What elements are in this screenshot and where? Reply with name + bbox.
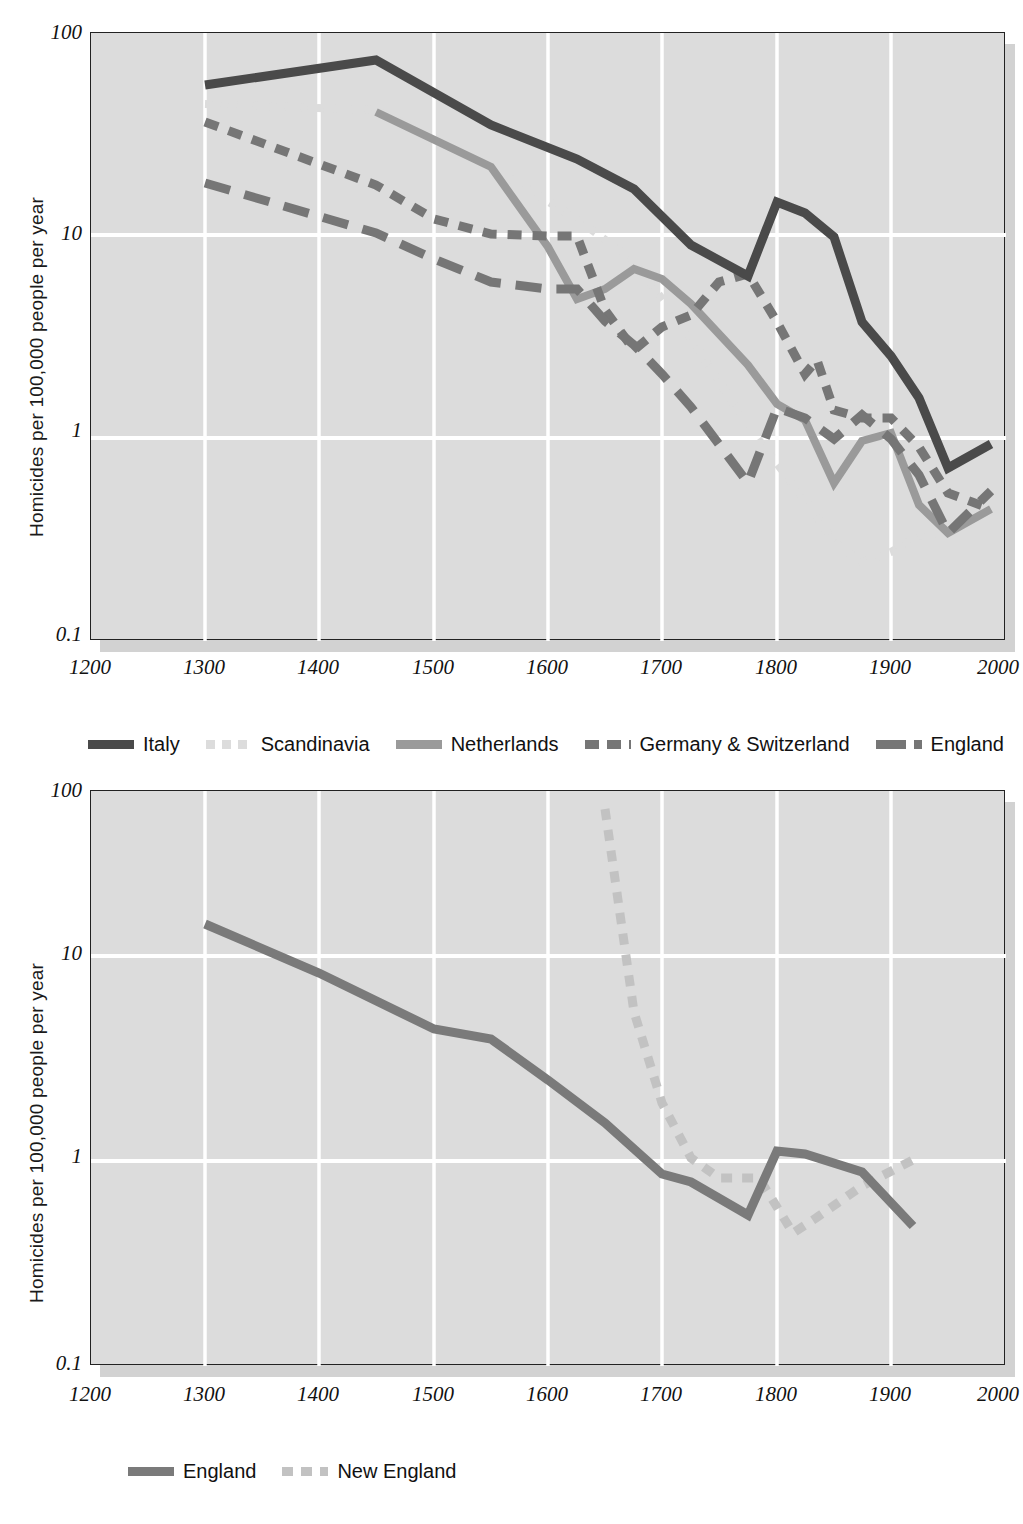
bottom-chart-xtick-2000: 2000 xyxy=(958,1382,1023,1407)
legend-swatch-italy xyxy=(88,740,134,749)
bottom-chart-plot-area xyxy=(90,790,1005,1365)
bottom-chart-ytick-0.1: 0.1 xyxy=(10,1351,82,1376)
top-chart-xtick-1500: 1500 xyxy=(393,655,473,680)
bottom-chart-xtick-1600: 1600 xyxy=(507,1382,587,1407)
legend-label-england: England xyxy=(931,733,1004,756)
legend-swatch-netherlands xyxy=(396,740,442,749)
bottom-chart-legend: England New England xyxy=(128,1460,456,1483)
top-chart-gridlines xyxy=(91,33,1006,641)
top-chart-svg xyxy=(91,33,1006,641)
legend-label-germany-switzerland: Germany & Switzerland xyxy=(640,733,850,756)
bottom-chart-xtick-1300: 1300 xyxy=(164,1382,244,1407)
legend-swatch-scandinavia xyxy=(206,740,252,749)
bottom-chart-xtick-1500: 1500 xyxy=(393,1382,473,1407)
legend-swatch-germany-switzerland xyxy=(585,740,631,749)
top-chart-ytick-0.1: 0.1 xyxy=(10,622,82,647)
legend-item-england-bottom: England xyxy=(128,1460,256,1483)
bottom-chart-svg xyxy=(91,791,1006,1366)
legend-item-new-england: New England xyxy=(282,1460,456,1483)
top-chart-xtick-1400: 1400 xyxy=(278,655,358,680)
legend-label-england-bottom: England xyxy=(183,1460,256,1483)
top-chart-xtick-1700: 1700 xyxy=(621,655,701,680)
bottom-chart-ytick-100: 100 xyxy=(22,778,82,803)
legend-swatch-england-bottom xyxy=(128,1467,174,1476)
bottom-chart-y-axis-title: Homicides per 100,000 people per year xyxy=(26,963,48,1303)
legend-item-germany-switzerland: Germany & Switzerland xyxy=(585,733,850,756)
legend-label-italy: Italy xyxy=(143,733,180,756)
legend-item-england: England xyxy=(876,733,1004,756)
legend-label-new-england: New England xyxy=(337,1460,456,1483)
top-chart-ytick-10: 10 xyxy=(22,221,82,246)
legend-swatch-england xyxy=(876,740,922,749)
bottom-chart-xtick-1800: 1800 xyxy=(736,1382,816,1407)
top-chart-xtick-1200: 1200 xyxy=(50,655,130,680)
bottom-chart-ytick-10: 10 xyxy=(22,941,82,966)
top-chart-ytick-100: 100 xyxy=(22,20,82,45)
top-chart-xtick-1300: 1300 xyxy=(164,655,244,680)
top-chart-y-axis-title: Homicides per 100,000 people per year xyxy=(26,197,48,537)
bottom-chart-xtick-1200: 1200 xyxy=(50,1382,130,1407)
bottom-chart-xtick-1400: 1400 xyxy=(278,1382,358,1407)
top-chart-legend: Italy Scandinavia Netherlands Germany & … xyxy=(88,733,1004,756)
legend-item-netherlands: Netherlands xyxy=(396,733,559,756)
top-chart-plot-area xyxy=(90,32,1005,640)
bottom-chart-xtick-1700: 1700 xyxy=(621,1382,701,1407)
bottom-chart-ytick-1: 1 xyxy=(22,1144,82,1169)
legend-item-italy: Italy xyxy=(88,733,180,756)
legend-item-scandinavia: Scandinavia xyxy=(206,733,370,756)
series-italy-line xyxy=(205,60,991,468)
legend-swatch-new-england xyxy=(282,1467,328,1476)
bottom-chart-xtick-1900: 1900 xyxy=(850,1382,930,1407)
top-chart-ytick-1: 1 xyxy=(22,418,82,443)
top-chart-xtick-1800: 1800 xyxy=(736,655,816,680)
top-chart-xtick-2000: 2000 xyxy=(958,655,1023,680)
legend-label-netherlands: Netherlands xyxy=(451,733,559,756)
top-chart-xtick-1900: 1900 xyxy=(850,655,930,680)
series-england-line-bottom xyxy=(205,924,913,1226)
top-chart-xtick-1600: 1600 xyxy=(507,655,587,680)
legend-label-scandinavia: Scandinavia xyxy=(261,733,370,756)
